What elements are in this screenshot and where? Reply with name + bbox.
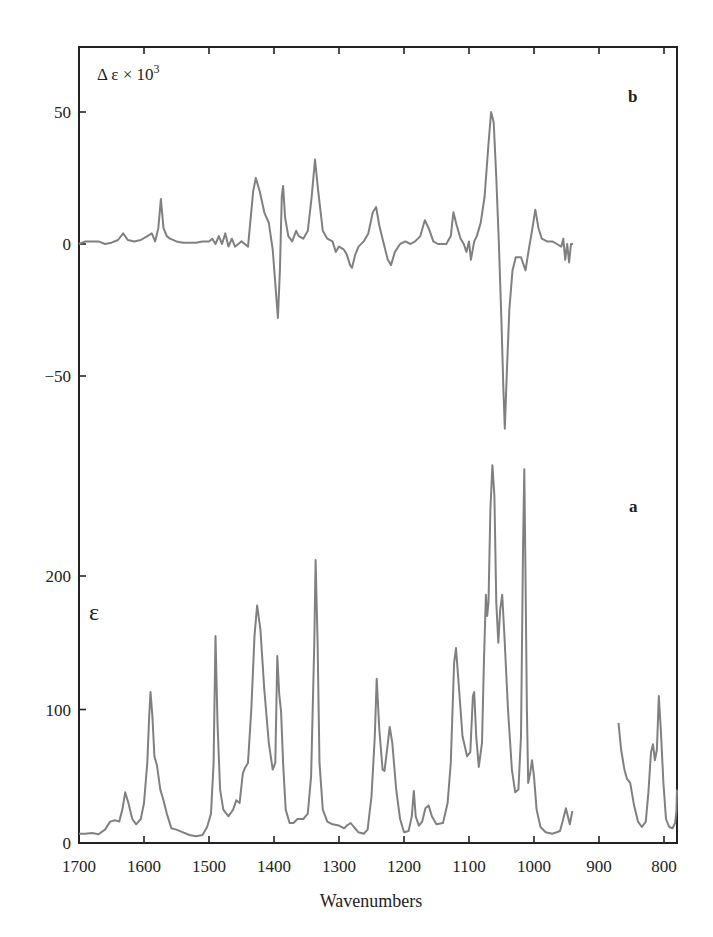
x-tick-label: 1500 bbox=[192, 857, 226, 876]
spectrum-figure: 17001600150014001300120011001000900800 5… bbox=[0, 0, 713, 937]
x-tick-label: 1000 bbox=[517, 857, 551, 876]
x-axis-tick-labels: 17001600150014001300120011001000900800 bbox=[62, 857, 677, 876]
panel-a-ir-curve bbox=[79, 465, 677, 836]
x-tick-label: 900 bbox=[586, 857, 612, 876]
y-tick-label: 0 bbox=[63, 834, 72, 853]
panel-b-letter: b bbox=[628, 87, 637, 106]
x-tick-label: 1300 bbox=[322, 857, 356, 876]
x-tick-label: 1100 bbox=[452, 857, 485, 876]
x-tick-label: 1700 bbox=[62, 857, 96, 876]
x-tick-label: 1200 bbox=[387, 857, 421, 876]
y-tick-label: 0 bbox=[63, 235, 72, 254]
x-tick-label: 800 bbox=[651, 857, 677, 876]
spectrum-line bbox=[79, 112, 573, 429]
panel-a-letter: a bbox=[629, 497, 638, 516]
panel-b-y-label: Δ ε × 103 bbox=[97, 62, 159, 84]
y-tick-label: 100 bbox=[46, 701, 72, 720]
y-tick-label: 50 bbox=[54, 103, 71, 122]
spectrum-line bbox=[619, 696, 678, 828]
top-axis-ticks bbox=[79, 47, 664, 54]
x-axis-ticks bbox=[79, 836, 664, 843]
x-tick-label: 1400 bbox=[257, 857, 291, 876]
panel-a-y-label: ε bbox=[89, 599, 99, 625]
y-tick-label: −50 bbox=[44, 367, 71, 386]
y-tick-label: 200 bbox=[46, 567, 72, 586]
panel-b-vcd-curve bbox=[79, 112, 573, 429]
x-tick-label: 1600 bbox=[127, 857, 161, 876]
spectrum-line bbox=[79, 465, 572, 836]
x-axis-title: Wavenumbers bbox=[320, 891, 423, 911]
